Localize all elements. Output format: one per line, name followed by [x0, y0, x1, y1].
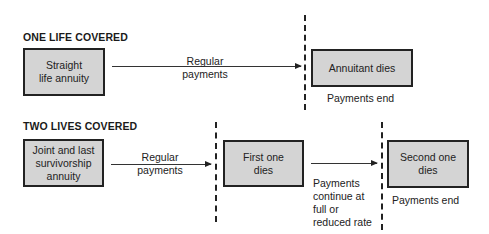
continued-payments-arrow: [311, 163, 377, 164]
section-title-two-lives: TWO LIVES COVERED: [23, 120, 137, 132]
straight-life-annuity-box: Straight life annuity: [23, 48, 105, 96]
payments-end-note-joint: Payments end: [392, 194, 459, 207]
first-one-dies-box: First one dies: [223, 140, 304, 187]
death-boundary-dashed-line: [304, 15, 306, 110]
regular-payments-label: Regular payments: [160, 55, 250, 81]
joint-survivorship-annuity-box: Joint and last survivorship annuity: [23, 139, 104, 187]
continued-payments-label: Payments continue at full or reduced rat…: [313, 177, 372, 229]
second-death-dashed-line: [381, 122, 383, 230]
regular-payments-label-joint: Regular payments: [115, 151, 205, 177]
payments-end-note: Payments end: [327, 92, 394, 105]
second-one-dies-box: Second one dies: [387, 140, 469, 188]
annuitant-dies-box: Annuitant dies: [311, 49, 413, 87]
section-title-one-life: ONE LIFE COVERED: [23, 31, 128, 43]
first-death-dashed-line: [215, 122, 217, 222]
